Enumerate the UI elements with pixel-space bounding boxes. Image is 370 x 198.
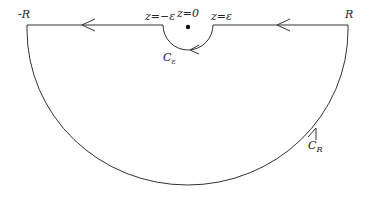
label-c-eps-sub: ε: [171, 57, 175, 66]
contour-diagram: [0, 0, 370, 198]
label-pos-r: R: [345, 9, 353, 20]
label-z-pos-eps: z=ε: [211, 11, 232, 22]
label-c-eps: Cε: [163, 52, 176, 66]
label-z-zero: z=0: [177, 8, 199, 19]
label-neg-r: -R: [18, 9, 30, 20]
label-z-neg-eps: z=−ε: [145, 11, 175, 22]
origin-dot: [186, 25, 190, 29]
large-semicircle-c-r: [27, 25, 348, 185]
label-c-r-sub: R: [316, 145, 322, 154]
label-c-r: CR: [308, 140, 322, 154]
